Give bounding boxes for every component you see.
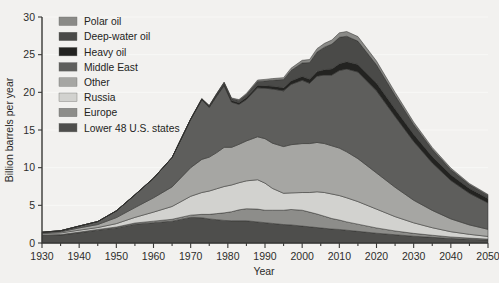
y-tick-label: 15 [23,124,35,136]
y-tick-label: 25 [23,48,35,60]
legend-swatch [59,32,77,41]
y-tick-label: 5 [29,199,35,211]
x-tick-label: 2050 [476,250,499,262]
x-tick-label: 1980 [216,250,240,262]
legend-swatch [59,78,77,87]
legend-swatch [59,17,77,26]
stacked-area-chart-figure: 1930194019501960197019801990200020102020… [0,0,499,283]
x-tick-label: 2030 [402,250,426,262]
x-tick-label: 2010 [328,250,352,262]
legend-label: Heavy oil [84,47,126,58]
legend-swatch [59,93,77,102]
x-tick-label: 2020 [365,250,389,262]
y-axis-title: Billion barrels per year [3,77,15,182]
legend-label: Europe [84,107,117,118]
x-tick-label: 2040 [439,250,463,262]
y-tick-label: 0 [29,237,35,249]
x-tick-label: 1990 [253,250,277,262]
legend-swatch [59,63,77,72]
y-tick-label: 10 [23,161,35,173]
x-tick-label: 1950 [105,250,129,262]
legend-label: Polar oil [84,16,121,27]
x-tick-label: 1970 [179,250,203,262]
y-tick-label: 20 [23,86,35,98]
x-tick-label: 2000 [290,250,314,262]
legend-label: Lower 48 U.S. states [84,123,180,134]
legend-label: Deep-water oil [84,31,150,42]
x-tick-label: 1960 [142,250,166,262]
legend-label: Russia [84,92,116,103]
legend-swatch [59,47,77,56]
legend-label: Middle East [84,62,138,73]
x-tick-label: 1930 [30,250,54,262]
x-tick-label: 1940 [67,250,91,262]
legend-label: Other [84,77,110,88]
legend-swatch [59,108,77,117]
legend-swatch [59,123,77,131]
chart-canvas: 1930194019501960197019801990200020102020… [0,0,499,283]
x-axis-title: Year [253,265,275,277]
y-tick-label: 30 [23,11,35,23]
